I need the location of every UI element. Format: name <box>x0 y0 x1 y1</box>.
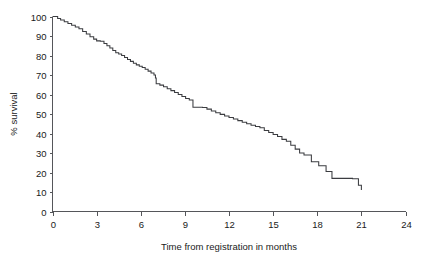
x-tick-label: 12 <box>224 219 235 230</box>
x-tick-label: 3 <box>95 219 100 230</box>
y-axis-title: % survival <box>8 92 19 135</box>
x-tick-label: 0 <box>51 219 56 230</box>
y-axis-ticks: 0102030405060708090100 <box>31 12 53 218</box>
survival-curve-line <box>53 17 362 191</box>
x-tick-label: 18 <box>312 219 323 230</box>
x-tick-label: 24 <box>401 219 412 230</box>
x-tick-label: 6 <box>139 219 144 230</box>
y-tick-label: 60 <box>36 90 47 101</box>
x-tick-label: 21 <box>356 219 367 230</box>
y-tick-label: 10 <box>36 187 47 198</box>
chart-canvas: 0102030405060708090100 03691215182124 Ti… <box>0 0 427 263</box>
y-tick-label: 40 <box>36 129 47 140</box>
x-axis-title: Time from registration in months <box>161 241 297 252</box>
y-tick-label: 20 <box>36 168 47 179</box>
x-tick-label: 9 <box>183 219 188 230</box>
y-tick-label: 100 <box>31 12 47 23</box>
y-tick-label: 70 <box>36 70 47 81</box>
y-tick-label: 90 <box>36 31 47 42</box>
y-tick-label: 0 <box>41 207 46 218</box>
y-tick-label: 50 <box>36 109 47 120</box>
x-tick-label: 15 <box>268 219 279 230</box>
survival-chart-figure: 0102030405060708090100 03691215182124 Ti… <box>0 0 427 263</box>
x-axis-ticks: 03691215182124 <box>51 212 412 230</box>
y-tick-label: 30 <box>36 148 47 159</box>
y-tick-label: 80 <box>36 51 47 62</box>
